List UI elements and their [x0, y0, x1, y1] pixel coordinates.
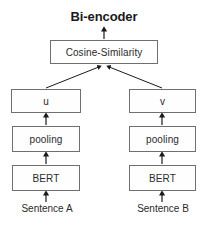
bi-encoder-diagram: Bi-encoder Cosine-Similarity u pooling B…	[0, 0, 208, 226]
node-pooling-right: pooling	[129, 126, 196, 152]
connector-layer	[0, 0, 208, 226]
node-pooling-left: pooling	[12, 126, 80, 152]
label-sentence-b: Sentence B	[116, 203, 208, 214]
arrow-v-to-cosine	[108, 67, 162, 89]
label-sentence-a: Sentence A	[0, 203, 94, 214]
node-vector-v: v	[129, 89, 196, 113]
arrow-u-to-cosine	[46, 67, 100, 89]
node-bert-left: BERT	[12, 165, 80, 191]
node-bert-right: BERT	[129, 165, 196, 191]
node-vector-u: u	[11, 89, 81, 113]
diagram-title: Bi-encoder	[0, 9, 208, 24]
node-cosine-similarity: Cosine-Similarity	[50, 40, 158, 64]
